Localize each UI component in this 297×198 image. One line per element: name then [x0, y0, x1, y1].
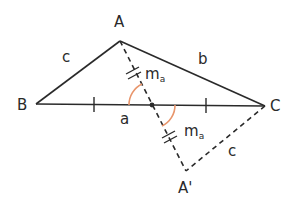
triangle-median-diagram: A B C A' c b a c ma ma [0, 0, 297, 198]
vertex-a-label: A [114, 13, 125, 31]
vertex-a-prime-label: A' [178, 179, 192, 197]
median-label-upper: ma [145, 65, 165, 84]
angle-arc-upper [129, 84, 142, 105]
median-label-lower: ma [184, 122, 204, 141]
side-ab [36, 41, 120, 104]
side-a-label: a [120, 110, 129, 128]
angle-arc-lower [162, 105, 175, 126]
midpoint-dot [150, 103, 155, 108]
side-c-prime-label: c [228, 142, 236, 160]
side-ac [120, 41, 265, 106]
vertex-b-label: B [17, 96, 27, 114]
vertex-c-label: C [270, 97, 280, 115]
side-b-label: b [198, 50, 208, 68]
side-c-label: c [62, 48, 70, 66]
